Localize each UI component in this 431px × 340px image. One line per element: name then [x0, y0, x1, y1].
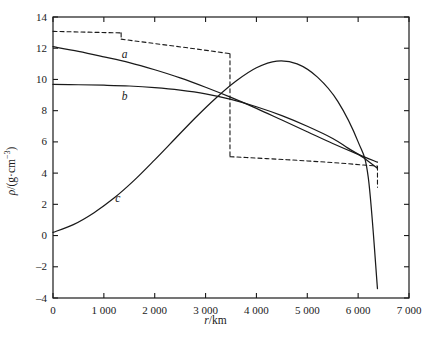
curve-label-a: a	[122, 49, 128, 61]
series-curve-b	[53, 84, 377, 168]
y-tick-label: 10	[5, 74, 47, 85]
curve-label-c: c	[115, 193, 120, 205]
series-reference-dashed	[53, 31, 377, 187]
data-series	[53, 31, 377, 288]
y-axis-title-wrap: ρ/(g·cm−3)	[2, 112, 18, 232]
chart-canvas	[0, 0, 431, 340]
figure-container: 01 0002 0003 0004 0005 0006 0007 000–4–2…	[0, 0, 431, 340]
x-axis-title: r/km	[0, 315, 431, 327]
y-axis-title: ρ/(g·cm−3)	[3, 111, 17, 231]
x-axis-title-text: /km	[209, 314, 227, 326]
series-curve-c	[53, 61, 377, 289]
curve-label-b: b	[122, 91, 128, 103]
axes-frame	[53, 17, 409, 298]
y-tick-label: 12	[5, 43, 47, 54]
axis-ticks	[53, 17, 409, 298]
y-axis-title-text: /(g·cm−3)	[5, 147, 17, 190]
y-axis-exponent: −3	[3, 150, 12, 159]
series-curve-a	[53, 47, 377, 163]
y-tick-label: –2	[5, 261, 47, 272]
plot-frame	[53, 17, 409, 298]
y-tick-label: –4	[5, 293, 47, 304]
y-tick-label: 14	[5, 12, 47, 23]
